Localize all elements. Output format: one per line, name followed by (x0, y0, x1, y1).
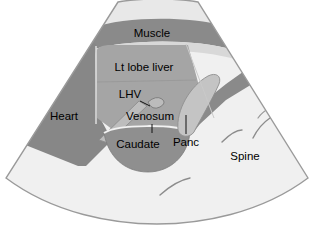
label-venosum: Venosum (126, 110, 174, 122)
label-spine: Spine (230, 150, 259, 162)
label-caudate: Caudate (116, 138, 159, 150)
ultrasound-sector-diagram: Muscle Lt lobe liver LHV Venosum Heart C… (0, 0, 314, 228)
ultrasound-sector-figure: Muscle Lt lobe liver LHV Venosum Heart C… (0, 0, 314, 228)
label-lt-lobe-liver: Lt lobe liver (115, 61, 174, 73)
label-lhv: LHV (119, 88, 142, 100)
label-panc: Panc (173, 136, 199, 148)
label-muscle: Muscle (134, 27, 170, 39)
label-heart: Heart (50, 110, 79, 122)
